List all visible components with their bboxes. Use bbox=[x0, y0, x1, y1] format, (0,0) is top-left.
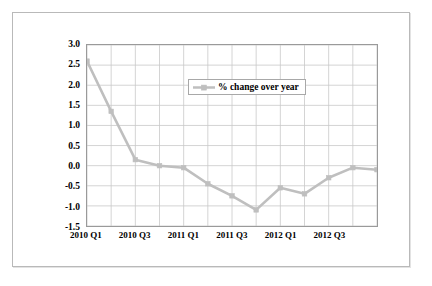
x-tick-label: 2011 Q3 bbox=[216, 230, 247, 240]
x-axis-tick-labels: 2010 Q12010 Q32011 Q12011 Q32012 Q12012 … bbox=[86, 230, 378, 248]
y-tick-label: 3.0 bbox=[68, 39, 80, 49]
x-tick-label: 2012 Q1 bbox=[265, 230, 297, 240]
y-tick-label: 2.0 bbox=[68, 80, 80, 90]
y-tick-label: -0.5 bbox=[65, 181, 80, 191]
y-axis-tick-labels: 3.02.52.01.51.00.50.0-0.5-1.0-1.5 bbox=[44, 44, 84, 227]
chart-screenshot: GDP at constant prices per hour worked %… bbox=[0, 0, 432, 286]
legend-series-swatch bbox=[193, 83, 215, 92]
y-tick-label: 1.5 bbox=[68, 100, 80, 110]
y-tick-label: 1.0 bbox=[68, 120, 80, 130]
x-tick-label: 2012 Q3 bbox=[313, 230, 345, 240]
legend-label: % change over year bbox=[218, 82, 299, 92]
y-tick-label: 0.0 bbox=[68, 161, 80, 171]
x-tick-label: 2011 Q1 bbox=[168, 230, 199, 240]
data-series-line bbox=[87, 45, 377, 226]
x-tick-label: 2010 Q3 bbox=[119, 230, 151, 240]
plot-area bbox=[86, 44, 378, 227]
y-tick-label: -1.0 bbox=[65, 202, 80, 212]
y-tick-label: 0.5 bbox=[68, 141, 80, 151]
legend: % change over year bbox=[188, 79, 306, 95]
y-tick-label: 2.5 bbox=[68, 59, 80, 69]
x-tick-label: 2010 Q1 bbox=[70, 230, 102, 240]
